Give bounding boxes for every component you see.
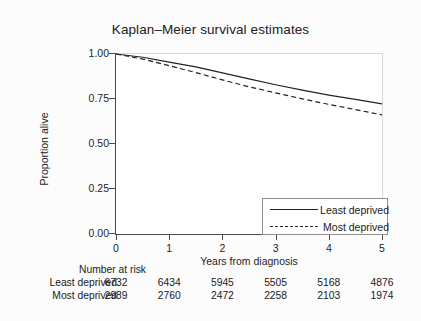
x-tick-mark bbox=[116, 234, 117, 240]
chart-title: Kaplan–Meier survival estimates bbox=[0, 22, 421, 37]
x-axis-title: Years from diagnosis bbox=[116, 255, 382, 267]
x-tick-label: 0 bbox=[101, 242, 131, 254]
risk-table-row: Most deprived298927602472225821031974 bbox=[0, 290, 421, 303]
legend-label: Least deprived bbox=[320, 204, 389, 216]
risk-cell: 2258 bbox=[253, 290, 299, 301]
risk-cell: 5168 bbox=[306, 277, 352, 288]
risk-cell: 4876 bbox=[359, 277, 405, 288]
risk-cell: 1974 bbox=[359, 290, 405, 301]
risk-cell: 2103 bbox=[306, 290, 352, 301]
y-tick-label: 0.00 bbox=[67, 227, 109, 239]
legend-label: Most deprived bbox=[323, 221, 389, 233]
x-tick-label: 2 bbox=[207, 242, 237, 254]
y-tick-mark bbox=[109, 98, 115, 99]
y-tick-label: 0.25 bbox=[67, 182, 109, 194]
survival-curve-most-deprived bbox=[116, 54, 382, 115]
y-tick-mark bbox=[109, 233, 115, 234]
y-tick-mark bbox=[109, 143, 115, 144]
x-tick-label: 5 bbox=[367, 242, 397, 254]
risk-cell: 2472 bbox=[199, 290, 245, 301]
legend-item[interactable]: Least deprived bbox=[263, 201, 389, 218]
y-axis-title: Proportion alive bbox=[38, 69, 50, 229]
y-tick-label: 1.00 bbox=[67, 47, 109, 59]
risk-cell: 6434 bbox=[146, 277, 192, 288]
legend-item[interactable]: Most deprived bbox=[263, 218, 389, 235]
y-tick-label: 0.50 bbox=[67, 137, 109, 149]
x-tick-mark bbox=[169, 234, 170, 240]
legend-line-icon bbox=[270, 205, 314, 215]
risk-table-heading: Number at risk bbox=[0, 264, 146, 275]
legend-box: Least deprivedMost deprived bbox=[262, 198, 388, 235]
legend-line-icon bbox=[270, 222, 317, 232]
risk-table-row: Least deprived673264345945550551684876 bbox=[0, 277, 421, 290]
risk-cell: 5945 bbox=[199, 277, 245, 288]
y-tick-mark bbox=[109, 188, 115, 189]
risk-cell: 2989 bbox=[93, 290, 139, 301]
risk-cell: 5505 bbox=[253, 277, 299, 288]
x-tick-mark bbox=[222, 234, 223, 240]
x-tick-label: 4 bbox=[314, 242, 344, 254]
y-tick-mark bbox=[109, 53, 115, 54]
x-tick-label: 1 bbox=[154, 242, 184, 254]
risk-cell: 6732 bbox=[93, 277, 139, 288]
risk-cell: 2760 bbox=[146, 290, 192, 301]
kaplan-meier-figure: Kaplan–Meier survival estimates Proporti… bbox=[0, 0, 421, 321]
y-tick-label: 0.75 bbox=[67, 92, 109, 104]
survival-curve-least-deprived bbox=[116, 54, 382, 104]
x-tick-label: 3 bbox=[261, 242, 291, 254]
